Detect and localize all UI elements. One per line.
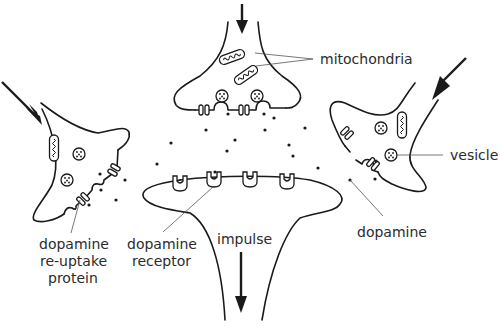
label-reuptake-3: protein [48,270,98,286]
label-receptor-1: dopamine [127,236,197,252]
presynaptic-terminal-right [330,58,466,191]
label-dopamine: dopamine [357,224,427,240]
arrow-down-icon [2,82,42,125]
arrow-down-icon [432,58,466,100]
label-mitochondria: mitochondria [320,51,413,67]
label-reuptake-1: dopamine [39,236,109,252]
arrow-down-icon [236,4,248,34]
presynaptic-terminal-left [2,82,129,222]
label-reuptake-2: re-uptake [40,253,107,269]
dopamine-synapse-diagram: mitochondria vesicle dopamine impulse do… [0,0,500,326]
label-impulse: impulse [217,231,272,247]
label-receptor-2: receptor [132,253,191,269]
arrow-down-icon [235,252,247,313]
label-vesicle: vesicle [450,147,498,163]
presynaptic-terminal-top [174,4,301,115]
